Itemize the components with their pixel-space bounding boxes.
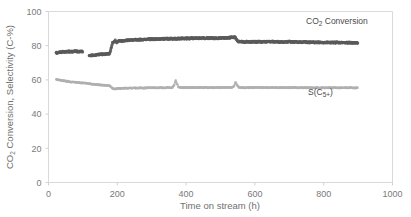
y-tick-label-80: 80 <box>31 41 41 51</box>
y-tick-label-40: 40 <box>31 109 41 119</box>
y-axis-title-main: CO <box>4 155 15 169</box>
legend-co2-main: CO <box>306 16 319 26</box>
x-tick-label-600: 600 <box>247 189 262 199</box>
y-axis-title-rest: Conversion, Selectivity (C-%) <box>4 25 15 151</box>
data-point <box>81 51 84 54</box>
figure-background <box>0 0 411 217</box>
y-tick-label-100: 100 <box>26 7 41 17</box>
legend-co2-rest: Conversion <box>322 16 368 26</box>
y-axis-title: CO2 Conversion, Selectivity (C-%) <box>4 25 16 169</box>
y-tick-label-0: 0 <box>36 178 41 188</box>
data-point <box>357 87 359 89</box>
x-tick-label-1000: 1000 <box>382 189 402 199</box>
legend-s-c5plus: S(C5+) <box>308 87 333 98</box>
chart-figure: 020406080100 02004006008001000 CO2 Conve… <box>0 0 411 217</box>
legend-sc5-main: S(C <box>308 87 323 97</box>
x-tick-label-200: 200 <box>110 189 125 199</box>
svg-text:CO2 Conversion, Selectivity (C: CO2 Conversion, Selectivity (C-%) <box>4 25 16 169</box>
y-tick-label-20: 20 <box>31 144 41 154</box>
x-axis-title: Time on stream (h) <box>180 200 260 211</box>
data-point <box>356 41 359 44</box>
y-tick-label-60: 60 <box>31 75 41 85</box>
legend-sc5-rest: ) <box>330 87 333 97</box>
legend-co2-conversion: CO2 Conversion <box>306 16 368 27</box>
x-tick-label-800: 800 <box>316 189 331 199</box>
x-tick-label-400: 400 <box>179 189 194 199</box>
chart-svg: 020406080100 02004006008001000 CO2 Conve… <box>0 0 411 217</box>
x-axis-title-text: Time on stream (h) <box>180 200 260 211</box>
x-tick-label-0: 0 <box>46 189 51 199</box>
